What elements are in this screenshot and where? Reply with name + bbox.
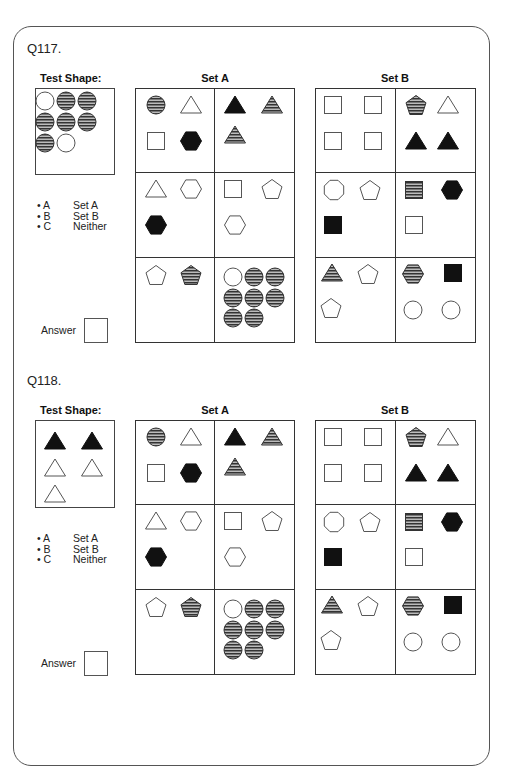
cell-figure <box>215 258 294 342</box>
set-cell-2-1 <box>316 173 396 257</box>
circle-outline-icon <box>404 301 422 319</box>
triangle-striped-icon <box>262 428 283 445</box>
circle-outline-icon <box>404 633 422 651</box>
set-b-label: Set B <box>315 404 475 416</box>
test-shape-label: Test Shape: <box>40 72 102 84</box>
cell-figure <box>316 89 396 173</box>
cell-figure <box>396 258 476 342</box>
set-cell-2-2 <box>396 505 476 589</box>
circle-outline-icon <box>57 134 75 152</box>
option-key: • C <box>37 221 73 232</box>
triangle-solid-icon <box>45 432 66 449</box>
pentagon-outline-icon <box>262 180 282 199</box>
pentagon-outline-icon <box>321 630 341 649</box>
triangle-solid-icon <box>225 428 246 445</box>
answer-box[interactable] <box>84 651 108 676</box>
pentagon-striped-icon <box>181 597 201 616</box>
option-c[interactable]: • CNeither <box>37 221 107 232</box>
pentagon-outline-icon <box>360 181 380 200</box>
hexagon-solid-icon <box>146 216 167 234</box>
triangle-striped-icon <box>262 96 283 113</box>
square-outline-icon <box>148 465 165 482</box>
circle-striped-icon <box>224 309 242 327</box>
cell-figure <box>215 173 294 257</box>
circle-striped-icon <box>245 309 263 327</box>
hexagon-outline-icon <box>181 180 202 198</box>
triangle-outline-icon <box>45 459 66 476</box>
option-c[interactable]: • CNeither <box>37 554 107 565</box>
option-label: Neither <box>73 554 107 565</box>
triangle-striped-icon <box>322 596 343 613</box>
circle-striped-icon <box>147 96 165 114</box>
cell-figure <box>396 421 476 505</box>
circle-striped-icon <box>36 134 54 152</box>
set-cell-1-2 <box>215 421 294 505</box>
circle-outline-icon <box>224 268 242 286</box>
question-title: Q118. <box>27 373 61 388</box>
circle-striped-icon <box>57 92 75 110</box>
pentagon-striped-icon <box>181 265 201 284</box>
set-cell-3-2 <box>396 590 476 674</box>
cell-figure <box>396 89 476 173</box>
circle-striped-icon <box>266 621 284 639</box>
pentagon-outline-icon <box>146 265 166 284</box>
set-cell-1-1 <box>316 421 396 505</box>
square-outline-icon <box>365 429 382 446</box>
option-key: • C <box>37 554 73 565</box>
triangle-outline-icon <box>181 96 202 113</box>
hexagon-outline-icon <box>225 548 246 566</box>
test-shape-box <box>35 420 115 508</box>
option-label: Set A <box>73 200 98 211</box>
test-shape-box <box>35 88 115 175</box>
hexagon-solid-icon <box>441 513 462 531</box>
circle-striped-icon <box>266 600 284 618</box>
octagon-outline-icon <box>324 513 343 532</box>
set-cell-1-1 <box>136 421 215 505</box>
answer-options: • ASet A • BSet B • CNeither <box>37 200 107 232</box>
answer-options: • ASet A • BSet B • CNeither <box>37 533 107 565</box>
triangle-outline-icon <box>437 96 458 113</box>
cell-figure <box>136 421 215 505</box>
square-outline-icon <box>325 133 342 150</box>
cell-figure <box>215 421 294 505</box>
cell-figure <box>316 590 396 674</box>
option-label: Neither <box>73 221 107 232</box>
cell-figure <box>316 421 396 505</box>
set-cell-3-2 <box>396 258 476 342</box>
set-cell-3-1 <box>316 590 396 674</box>
test-shape-figure <box>36 421 116 509</box>
set-cell-1-1 <box>316 89 396 173</box>
triangle-striped-icon <box>225 458 246 475</box>
circle-striped-icon <box>78 113 96 131</box>
option-label: Set A <box>73 533 98 544</box>
circle-striped-icon <box>36 113 54 131</box>
option-a[interactable]: • ASet A <box>37 200 107 211</box>
square-solid-icon <box>444 264 461 281</box>
circle-striped-icon <box>245 621 263 639</box>
hexagon-solid-icon <box>181 464 202 482</box>
triangle-striped-icon <box>322 264 343 281</box>
circle-striped-icon <box>245 641 263 659</box>
square-striped-icon <box>405 514 422 531</box>
answer-box[interactable] <box>84 318 108 343</box>
circle-striped-icon <box>224 641 242 659</box>
cell-figure <box>136 590 215 674</box>
cell-figure <box>396 505 476 589</box>
triangle-outline-icon <box>146 180 167 197</box>
circle-striped-icon <box>57 113 75 131</box>
cell-figure <box>136 89 215 173</box>
circle-striped-icon <box>245 600 263 618</box>
set-cell-3-1 <box>136 590 215 674</box>
option-a[interactable]: • ASet A <box>37 533 107 544</box>
set-a-grid <box>135 88 295 343</box>
triangle-striped-icon <box>225 126 246 143</box>
pentagon-outline-icon <box>146 597 166 616</box>
set-b-grid <box>315 88 476 343</box>
hexagon-solid-icon <box>146 548 167 566</box>
set-cell-1-2 <box>215 89 294 173</box>
cell-figure <box>316 173 396 257</box>
set-cell-2-1 <box>136 173 215 257</box>
cell-figure <box>215 590 294 674</box>
set-cell-1-2 <box>396 89 476 173</box>
octagon-outline-icon <box>324 181 343 200</box>
